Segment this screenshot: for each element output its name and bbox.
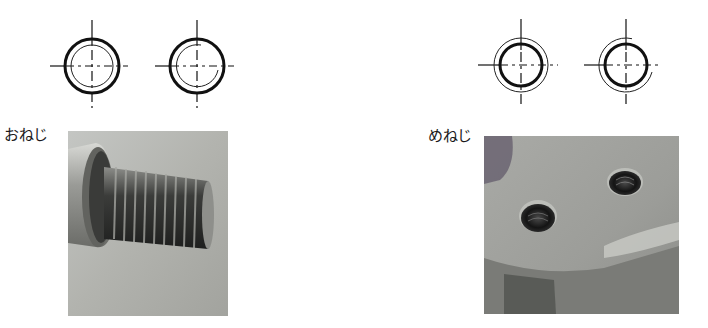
external-thread-symbol-full xyxy=(50,20,128,108)
thread-symbols-diagram xyxy=(0,0,708,125)
external-thread-symbol-partial xyxy=(155,20,234,108)
internal-thread-symbol-partial xyxy=(584,19,662,108)
internal-thread-photo xyxy=(484,136,679,314)
internal-thread-symbol-full xyxy=(478,19,558,108)
external-thread-photo xyxy=(68,131,228,316)
external-thread-label: おねじ xyxy=(4,126,48,144)
internal-thread-label: めねじ xyxy=(428,127,472,145)
